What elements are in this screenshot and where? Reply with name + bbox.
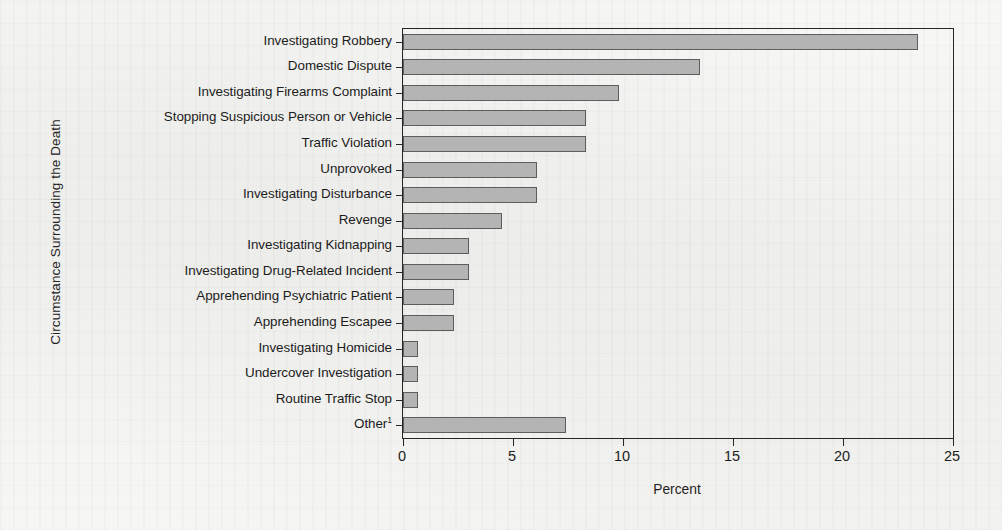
x-axis-tick-label: 25 [922, 448, 982, 464]
category-label: Investigating Homicide [40, 341, 392, 355]
x-axis-tick-label: 0 [372, 448, 432, 464]
category-label: Traffic Violation [40, 136, 392, 150]
category-label: Investigating Drug-Related Incident [40, 264, 392, 278]
x-axis-tick [953, 438, 954, 446]
y-axis-tick [396, 297, 403, 298]
category-label: Revenge [40, 213, 392, 227]
x-axis-tick [513, 438, 514, 446]
x-axis-title: Percent [402, 482, 952, 497]
category-label: Unprovoked [40, 162, 392, 176]
y-axis-tick [396, 400, 403, 401]
x-axis-tick-label: 20 [812, 448, 872, 464]
bar [403, 264, 469, 280]
y-axis-tick [396, 221, 403, 222]
x-axis-tick [623, 438, 624, 446]
category-label: Investigating Robbery [40, 34, 392, 48]
bar [403, 162, 537, 178]
footnote-marker: 1 [387, 415, 392, 425]
x-axis-tick-label: 5 [482, 448, 542, 464]
y-axis-tick [396, 67, 403, 68]
category-label: Investigating Disturbance [40, 187, 392, 201]
category-label: Domestic Dispute [40, 59, 392, 73]
y-axis-tick [396, 170, 403, 171]
y-axis-tick [396, 246, 403, 247]
bar [403, 59, 700, 75]
bar [403, 34, 918, 50]
bar-chart-figure: Circumstance Surrounding the Death Inves… [0, 0, 1002, 530]
bar [403, 289, 454, 305]
y-axis-tick [396, 144, 403, 145]
plot-area [402, 28, 954, 439]
bar [403, 85, 619, 101]
x-axis-tick-label: 15 [702, 448, 762, 464]
bar [403, 341, 418, 357]
y-axis-tick [396, 195, 403, 196]
category-label: Investigating Firearms Complaint [40, 85, 392, 99]
x-axis-tick [843, 438, 844, 446]
category-label: Routine Traffic Stop [40, 392, 392, 406]
bar [403, 417, 566, 433]
bar [403, 238, 469, 254]
category-label: Undercover Investigation [40, 366, 392, 380]
x-axis-tick [403, 438, 404, 446]
category-label-column: Investigating RobberyDomestic DisputeInv… [40, 28, 392, 437]
y-axis-tick [396, 93, 403, 94]
bar [403, 392, 418, 408]
bar [403, 213, 502, 229]
bar [403, 136, 586, 152]
bar [403, 187, 537, 203]
category-label: Stopping Suspicious Person or Vehicle [40, 110, 392, 124]
bar [403, 110, 586, 126]
category-label: Other1 [40, 417, 392, 431]
y-axis-tick [396, 349, 403, 350]
bar [403, 366, 418, 382]
y-axis-tick [396, 425, 403, 426]
y-axis-tick [396, 272, 403, 273]
x-axis-tick-label: 10 [592, 448, 652, 464]
category-label: Apprehending Psychiatric Patient [40, 289, 392, 303]
y-axis-tick [396, 374, 403, 375]
x-axis-tick [733, 438, 734, 446]
y-axis-tick [396, 323, 403, 324]
category-label: Apprehending Escapee [40, 315, 392, 329]
y-axis-tick [396, 42, 403, 43]
category-label: Investigating Kidnapping [40, 238, 392, 252]
y-axis-tick [396, 118, 403, 119]
bar [403, 315, 454, 331]
